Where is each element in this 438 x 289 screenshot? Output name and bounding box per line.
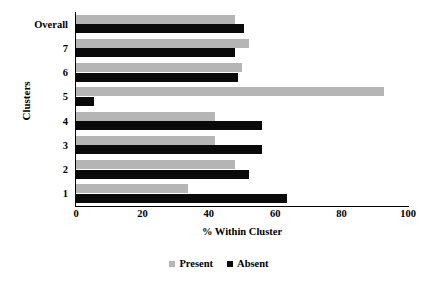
y-axis-label-1: 1	[8, 182, 72, 206]
y-axis-label-5: 5	[8, 85, 72, 109]
legend-label-absent: Absent	[237, 258, 269, 269]
bar-present-overall	[76, 15, 235, 24]
bar-group-4	[76, 109, 408, 133]
x-axis-title: % Within Cluster	[76, 226, 408, 237]
x-tick-40: 40	[204, 208, 215, 219]
y-axis-category-labels: Overall7654321	[8, 12, 72, 206]
x-tick-20: 20	[137, 208, 148, 219]
x-tick-0: 0	[73, 208, 78, 219]
bar-absent-5	[76, 97, 94, 106]
bar-absent-6	[76, 73, 238, 82]
chart-legend: PresentAbsent	[0, 258, 438, 269]
y-axis-label-4: 4	[8, 109, 72, 133]
y-axis-label-7: 7	[8, 36, 72, 60]
x-tick-100: 100	[400, 208, 416, 219]
x-tick-60: 60	[270, 208, 281, 219]
bar-present-2	[76, 160, 235, 169]
y-axis-label-6: 6	[8, 61, 72, 85]
bar-present-4	[76, 112, 215, 121]
y-axis-label-2: 2	[8, 158, 72, 182]
x-axis-line	[75, 206, 409, 207]
bar-present-6	[76, 63, 242, 72]
y-axis-label-overall: Overall	[8, 12, 72, 36]
bar-absent-7	[76, 48, 235, 57]
bar-group-3	[76, 133, 408, 157]
bar-absent-4	[76, 121, 262, 130]
bar-chart: Clusters Overall7654321 020406080100 % W…	[0, 0, 438, 289]
bar-present-5	[76, 87, 384, 96]
legend-swatch-absent	[227, 261, 233, 267]
legend-label-present: Present	[179, 258, 213, 269]
bar-present-3	[76, 136, 215, 145]
bar-absent-1	[76, 194, 287, 203]
bar-present-7	[76, 39, 249, 48]
bar-group-7	[76, 36, 408, 60]
x-tick-80: 80	[336, 208, 347, 219]
bar-present-1	[76, 184, 188, 193]
bar-group-5	[76, 85, 408, 109]
bar-group-overall	[76, 12, 408, 36]
bar-group-6	[76, 61, 408, 85]
legend-item-present[interactable]: Present	[169, 258, 213, 269]
bar-absent-2	[76, 170, 249, 179]
bar-absent-3	[76, 145, 262, 154]
bar-group-1	[76, 182, 408, 206]
plot-area	[76, 12, 408, 206]
legend-item-absent[interactable]: Absent	[227, 258, 269, 269]
bar-group-2	[76, 158, 408, 182]
x-axis-tick-labels: 020406080100	[76, 208, 408, 224]
legend-swatch-present	[169, 261, 175, 267]
y-axis-label-3: 3	[8, 133, 72, 157]
bar-absent-overall	[76, 24, 244, 33]
